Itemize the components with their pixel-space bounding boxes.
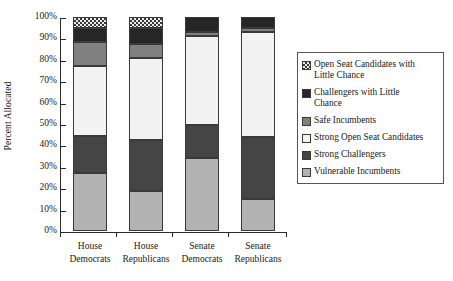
bar-segment bbox=[241, 137, 275, 199]
y-axis-tick-label: 20% bbox=[40, 182, 57, 192]
x-axis-tick-mark bbox=[228, 232, 229, 237]
bar-segment bbox=[241, 199, 275, 231]
bar-segment bbox=[185, 125, 219, 158]
bar-segment bbox=[73, 28, 107, 42]
legend-item-label-line: Strong Challengers bbox=[314, 149, 386, 160]
legend-swatch-icon bbox=[302, 117, 311, 126]
y-axis-tick-mark bbox=[61, 125, 66, 126]
bar-segment bbox=[129, 28, 163, 44]
legend-item[interactable]: Strong Open Seat Candidates bbox=[302, 132, 438, 143]
bar-segment bbox=[129, 58, 163, 140]
bar-segment bbox=[241, 28, 275, 32]
legend-item-label: Vulnerable Incumbents bbox=[314, 166, 400, 177]
legend-swatch-icon bbox=[302, 151, 311, 160]
bar-segment bbox=[129, 140, 163, 191]
y-axis-tick-mark bbox=[61, 61, 66, 62]
legend-item-label: Challengers with LittleChance bbox=[314, 87, 400, 109]
legend-item-label-line: Vulnerable Incumbents bbox=[314, 166, 400, 177]
legend-item-label-line: Safe Incumbents bbox=[314, 115, 376, 126]
y-axis-tick: 50% bbox=[0, 125, 66, 126]
y-axis-tick: 10% bbox=[0, 211, 66, 212]
y-axis-tick: 100% bbox=[0, 18, 66, 19]
legend-item[interactable]: Open Seat Candidates withLittle Chance bbox=[302, 59, 438, 81]
y-axis-tick-label: 70% bbox=[40, 75, 57, 85]
y-axis-tick-mark bbox=[61, 39, 66, 40]
x-axis-category-label-line: Senate bbox=[215, 240, 301, 253]
legend-item[interactable]: Challengers with LittleChance bbox=[302, 87, 438, 109]
y-axis-tick-mark bbox=[61, 232, 66, 233]
bar-segment bbox=[241, 32, 275, 137]
stacked-bar bbox=[185, 17, 219, 231]
y-axis-title: Percent Allocated bbox=[0, 0, 16, 232]
y-axis-tick-mark bbox=[61, 18, 66, 19]
bar-segment bbox=[185, 17, 219, 32]
legend-item-label: Strong Challengers bbox=[314, 149, 386, 160]
legend-item-label: Safe Incumbents bbox=[314, 115, 376, 126]
legend-item-label-line: Little Chance bbox=[314, 70, 415, 81]
x-axis-tick-mark bbox=[60, 232, 61, 237]
y-axis-tick: 30% bbox=[0, 168, 66, 169]
y-axis-tick-mark bbox=[61, 104, 66, 105]
legend-swatch-icon bbox=[302, 61, 311, 70]
stacked-bar bbox=[241, 17, 275, 231]
legend-swatch-icon bbox=[302, 134, 311, 143]
y-axis-tick-label: 10% bbox=[40, 204, 57, 214]
bar-segment bbox=[241, 17, 275, 28]
bar-segment bbox=[73, 42, 107, 67]
legend-swatch-icon bbox=[302, 89, 311, 98]
legend-item-label-line: Strong Open Seat Candidates bbox=[314, 132, 423, 143]
y-axis-tick-mark bbox=[61, 146, 66, 147]
bar-segment bbox=[185, 36, 219, 125]
legend-item-label: Strong Open Seat Candidates bbox=[314, 132, 423, 143]
legend: Open Seat Candidates withLittle ChanceCh… bbox=[297, 52, 444, 184]
y-axis-title-label: Percent Allocated bbox=[3, 82, 13, 151]
legend-item-label-line: Open Seat Candidates with bbox=[314, 59, 415, 70]
x-axis-category-label: SenateRepublicans bbox=[215, 240, 301, 265]
stacked-bar bbox=[129, 17, 163, 231]
y-axis-tick-mark bbox=[61, 168, 66, 169]
y-axis-tick: 70% bbox=[0, 82, 66, 83]
y-axis-tick-mark bbox=[61, 82, 66, 83]
x-axis-line bbox=[60, 232, 286, 233]
legend-item-label-line: Challengers with Little bbox=[314, 87, 400, 98]
y-axis-tick-label: 0% bbox=[44, 225, 57, 235]
y-axis-tick-label: 90% bbox=[40, 32, 57, 42]
y-axis-tick-label: 30% bbox=[40, 161, 57, 171]
x-axis-tick-mark bbox=[172, 232, 173, 237]
y-axis-tick: 60% bbox=[0, 104, 66, 105]
y-axis-tick-label: 60% bbox=[40, 97, 57, 107]
x-axis-tick-mark bbox=[286, 232, 287, 237]
y-axis-tick: 40% bbox=[0, 146, 66, 147]
y-axis-tick-label: 40% bbox=[40, 139, 57, 149]
y-axis-tick: 0% bbox=[0, 232, 66, 233]
x-axis-category-label-line: Republicans bbox=[215, 253, 301, 266]
bar-segment bbox=[73, 17, 107, 28]
legend-item[interactable]: Vulnerable Incumbents bbox=[302, 166, 438, 177]
bar-segment bbox=[129, 17, 163, 28]
y-axis-tick: 20% bbox=[0, 189, 66, 190]
y-axis-tick: 90% bbox=[0, 39, 66, 40]
bar-segment bbox=[185, 158, 219, 231]
y-axis-tick-mark bbox=[61, 211, 66, 212]
y-axis-tick-label: 80% bbox=[40, 54, 57, 64]
legend-swatch-icon bbox=[302, 168, 311, 177]
bar-segment bbox=[73, 66, 107, 136]
bar-segment bbox=[73, 136, 107, 173]
bar-segment bbox=[129, 191, 163, 231]
y-axis-tick-mark bbox=[61, 189, 66, 190]
legend-item-label: Open Seat Candidates withLittle Chance bbox=[314, 59, 415, 81]
plot-area: 100%90%80%70%60%50%40%30%20%10%0% HouseD… bbox=[60, 18, 285, 232]
y-axis-tick-label: 100% bbox=[35, 11, 57, 21]
y-axis-tick: 80% bbox=[0, 61, 66, 62]
stacked-bar-chart: Percent Allocated 100%90%80%70%60%50%40%… bbox=[0, 0, 453, 281]
bar-segment bbox=[185, 32, 219, 36]
x-axis-tick-mark bbox=[116, 232, 117, 237]
legend-item[interactable]: Strong Challengers bbox=[302, 149, 438, 160]
legend-item-label-line: Chance bbox=[314, 98, 400, 109]
stacked-bar bbox=[73, 17, 107, 231]
y-axis-tick-label: 50% bbox=[40, 118, 57, 128]
bar-segment bbox=[129, 44, 163, 58]
legend-item[interactable]: Safe Incumbents bbox=[302, 115, 438, 126]
bar-segment bbox=[73, 173, 107, 231]
